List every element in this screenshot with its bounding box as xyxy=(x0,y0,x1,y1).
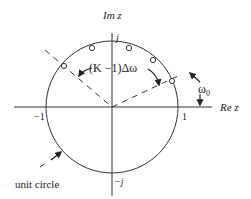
unit-circle-arrow xyxy=(51,152,61,160)
sample-point xyxy=(89,45,94,50)
z-plane-diagram: Im z j (K −1)Δω ω0 Re z −1 1 −j unit cir… xyxy=(0,0,251,199)
spacing-arrow-right xyxy=(148,69,159,85)
one-label: 1 xyxy=(182,111,187,122)
unit-circle-label: unit circle xyxy=(15,178,59,190)
omega0-symbol: ω xyxy=(198,82,206,96)
imag-axis-label: Im z xyxy=(102,9,122,21)
sample-point xyxy=(150,57,155,62)
spacing-label: (K −1)Δω xyxy=(89,61,137,75)
sample-point xyxy=(61,63,66,68)
omega0-arrow-up xyxy=(190,73,200,82)
spacing-label-text: (K −1)Δω xyxy=(89,61,137,75)
omega0-label: ω0 xyxy=(198,82,210,98)
sample-point xyxy=(169,78,174,83)
minus-one-label: −1 xyxy=(34,111,45,122)
real-axis-label: Re z xyxy=(219,101,239,113)
omega0-subscript: 0 xyxy=(206,89,210,98)
dashed-radius-left xyxy=(45,50,112,107)
minus-j-label: −j xyxy=(114,176,124,187)
unit-circle-pointer-line xyxy=(40,164,44,167)
sample-point xyxy=(126,45,131,50)
